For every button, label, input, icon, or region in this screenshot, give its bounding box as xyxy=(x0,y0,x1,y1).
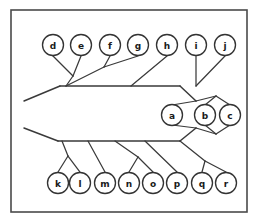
branch-o xyxy=(138,157,153,172)
node-label-m: m xyxy=(100,179,109,189)
node-label-n: n xyxy=(126,179,132,189)
branch-k xyxy=(58,156,68,172)
taxon-node-g[interactable]: g xyxy=(128,35,149,56)
taxon-node-a[interactable]: a xyxy=(162,105,183,126)
cladogram-figure: defghijabcklmnopqr xyxy=(0,0,258,223)
branch-no-stem xyxy=(115,141,138,157)
taxon-node-k[interactable]: k xyxy=(48,173,69,194)
taxon-node-b[interactable]: b xyxy=(195,105,216,126)
node-label-d: d xyxy=(50,41,56,51)
taxon-node-r[interactable]: r xyxy=(216,173,237,194)
taxon-nodes-group: defghijabcklmnopqr xyxy=(43,35,241,194)
taxon-node-l[interactable]: l xyxy=(70,173,91,194)
taxon-node-o[interactable]: o xyxy=(143,173,164,194)
branch-e xyxy=(73,56,81,76)
branch-r xyxy=(205,161,226,172)
taxon-node-q[interactable]: q xyxy=(192,173,213,194)
node-label-a: a xyxy=(169,111,175,121)
taxon-node-h[interactable]: h xyxy=(157,35,178,56)
taxon-node-c[interactable]: c xyxy=(220,105,241,126)
node-label-g: g xyxy=(135,41,141,51)
node-label-i: i xyxy=(194,41,197,51)
taxon-node-p[interactable]: p xyxy=(167,173,188,194)
taxon-node-j[interactable]: j xyxy=(215,35,236,56)
node-label-e: e xyxy=(78,41,84,51)
node-label-b: b xyxy=(202,111,209,121)
branch-f-stem xyxy=(66,67,104,86)
branch-n xyxy=(129,157,138,172)
node-label-c: c xyxy=(227,111,232,121)
tree-canvas: defghijabcklmnopqr xyxy=(0,0,258,223)
taxon-node-n[interactable]: n xyxy=(119,173,140,194)
branch-l xyxy=(68,156,80,172)
branch-kl-stem xyxy=(62,141,68,156)
branch-a xyxy=(172,101,196,105)
branch-m xyxy=(88,141,105,172)
branch-c-lower xyxy=(216,125,230,134)
taxon-node-f[interactable]: f xyxy=(100,35,121,56)
node-label-q: q xyxy=(199,179,205,189)
node-label-f: f xyxy=(108,41,112,51)
lower-left-tail xyxy=(24,128,58,141)
node-label-l: l xyxy=(78,179,81,189)
node-label-k: k xyxy=(55,179,62,189)
branch-h xyxy=(131,56,167,86)
branch-p xyxy=(145,141,177,172)
node-label-r: r xyxy=(224,179,229,189)
upper-to-hub xyxy=(180,86,196,101)
branch-d xyxy=(53,56,73,76)
node-label-o: o xyxy=(150,179,156,189)
upper-left-tail xyxy=(24,86,60,101)
taxon-node-i[interactable]: i xyxy=(186,35,207,56)
branch-qr-stem xyxy=(180,141,205,161)
lower-to-hub xyxy=(180,128,196,141)
branch-q xyxy=(202,161,205,172)
node-label-h: h xyxy=(164,41,170,51)
branch-j xyxy=(196,56,225,86)
node-label-p: p xyxy=(174,179,181,189)
taxon-node-e[interactable]: e xyxy=(71,35,92,56)
node-label-j: j xyxy=(222,41,226,51)
branch-c xyxy=(216,96,230,105)
taxon-node-m[interactable]: m xyxy=(95,173,116,194)
taxon-node-d[interactable]: d xyxy=(43,35,64,56)
